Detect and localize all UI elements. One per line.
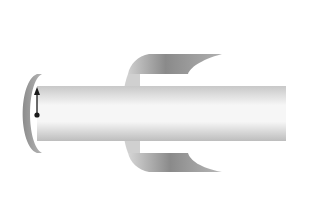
solenoid-tube	[37, 86, 286, 141]
solenoid-coil-diagram	[0, 0, 312, 201]
